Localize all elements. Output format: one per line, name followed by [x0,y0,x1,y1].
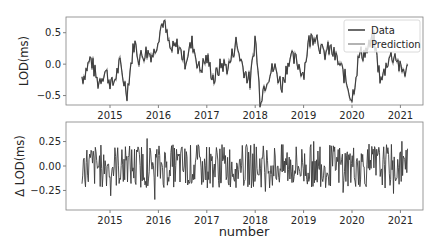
svg-text:2016: 2016 [146,110,171,121]
bottom-xlabel: number [219,224,270,239]
svg-text:2015: 2015 [97,110,122,121]
bottom-ylabel: Δ LOD(ms) [13,135,27,197]
svg-text:0.00: 0.00 [39,161,61,172]
legend-data: Data [371,25,395,36]
svg-text:2017: 2017 [194,215,219,226]
svg-text:0.0: 0.0 [45,59,61,70]
svg-text:2019: 2019 [291,110,316,121]
top-ylabel: LOD(ms) [17,36,31,86]
legend: Data Prediction [344,20,421,52]
chart-figure: 2015201620172018201920202021−0.50.00.5 L… [0,0,444,242]
svg-text:2020: 2020 [339,110,364,121]
svg-text:2016: 2016 [146,215,171,226]
svg-text:2021: 2021 [388,215,413,226]
top-axes: 2015201620172018201920202021−0.50.00.5 L… [17,17,423,121]
svg-text:0.25: 0.25 [39,136,61,147]
svg-text:2021: 2021 [388,110,413,121]
svg-text:2020: 2020 [339,215,364,226]
svg-text:0.5: 0.5 [45,27,61,38]
svg-text:−0.5: −0.5 [37,90,61,101]
svg-text:2015: 2015 [97,215,122,226]
legend-prediction: Prediction [371,39,421,50]
svg-text:−0.25: −0.25 [30,185,61,196]
svg-text:2018: 2018 [242,110,267,121]
svg-text:2017: 2017 [194,110,219,121]
svg-text:2019: 2019 [291,215,316,226]
bottom-axes: 2015201620172018201920202021−0.250.000.2… [13,122,423,239]
